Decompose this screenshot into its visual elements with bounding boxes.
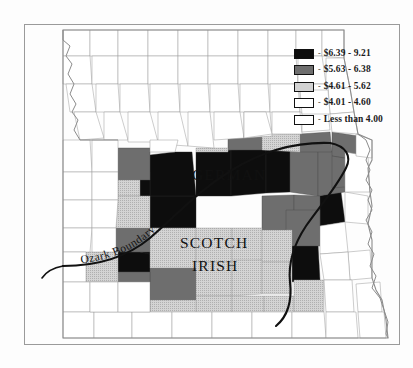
legend-dash-5: - [318,116,321,124]
legend-label-4: $4.01 - 4.60 [324,98,371,108]
legend-label-5: Less than 4.00 [324,115,383,125]
legend-swatch-1 [294,49,314,59]
legend-item-5: - Less than 4.00 [294,112,398,127]
legend-item-4: - $4.01 - 4.60 [294,96,398,111]
map-label-scotch: SCOTCH [180,235,248,251]
legend-label-2: $5.63 - 6.38 [324,65,371,75]
legend-dash-4: - [318,99,321,107]
legend-item-1: - $6.39 - 9.21 [294,46,398,61]
legend-swatch-3 [294,82,314,92]
map-legend: - $6.39 - 9.21 - $5.63 - 6.38 - $4.61 - … [294,46,398,129]
legend-dash-1: - [318,50,321,58]
legend-swatch-5 [294,115,314,125]
legend-label-3: $4.61 - 5.62 [324,82,371,92]
legend-swatch-2 [294,65,314,75]
legend-item-3: - $4.61 - 5.62 [294,79,398,94]
figure-panel: Ozark Boundary GERMAN SCOTCH IRISH - $6.… [0,0,413,368]
legend-dash-3: - [318,83,321,91]
map-label-irish: IRISH [192,258,238,274]
map-label-german: GERMAN [192,167,266,183]
ozark-boundary-spur [42,266,63,278]
legend-dash-2: - [318,66,321,74]
legend-swatch-4 [294,98,314,108]
legend-label-1: $6.39 - 9.21 [324,49,371,59]
legend-item-2: - $5.63 - 6.38 [294,63,398,78]
